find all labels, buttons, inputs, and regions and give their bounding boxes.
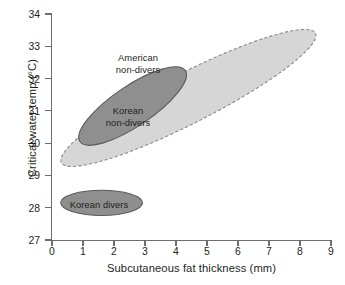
- y-tick-label-27: 27: [12, 235, 40, 246]
- x-tick-label-6: 6: [226, 246, 250, 257]
- ellipse-label-line2-american-non-divers: non-divers: [78, 64, 198, 76]
- x-tick-label-7: 7: [257, 246, 281, 257]
- y-tick-30: [45, 143, 51, 144]
- x-axis-title: Subcutaneous fat thickness (mm): [52, 262, 331, 274]
- y-tick-33: [45, 46, 51, 47]
- ellipse-label-american-non-divers: Americannon-divers: [78, 52, 198, 75]
- y-tick-label-32: 32: [12, 73, 40, 84]
- y-tick-label-31: 31: [12, 105, 40, 116]
- y-tick-34: [45, 13, 51, 14]
- chart-figure: Critical water temp (°C) Subcutaneous fa…: [0, 0, 345, 285]
- ellipse-american-non-divers: [50, 11, 327, 185]
- y-tick-label-33: 33: [12, 41, 40, 52]
- y-tick-32: [45, 78, 51, 79]
- x-tick-label-1: 1: [71, 246, 95, 257]
- x-tick-label-2: 2: [102, 246, 126, 257]
- x-tick-label-3: 3: [133, 246, 157, 257]
- y-tick-label-29: 29: [12, 170, 40, 181]
- ellipse-label-line1-korean-non-divers: Korean: [68, 105, 188, 117]
- y-tick-31: [45, 110, 51, 111]
- y-axis-title: Critical water temp (°C): [26, 3, 38, 233]
- ellipse-label-line1-american-non-divers: American: [78, 52, 198, 64]
- x-tick-label-4: 4: [164, 246, 188, 257]
- y-tick-29: [45, 175, 51, 176]
- ellipse-label-korean-divers: Korean divers: [39, 199, 159, 211]
- x-axis-line: [51, 240, 332, 241]
- y-tick-label-30: 30: [12, 138, 40, 149]
- x-tick-label-0: 0: [40, 246, 64, 257]
- x-tick-label-8: 8: [288, 246, 312, 257]
- ellipse-label-line2-korean-non-divers: non-divers: [68, 117, 188, 129]
- y-tick-label-28: 28: [12, 202, 40, 213]
- y-tick-label-34: 34: [12, 9, 40, 20]
- ellipse-label-line1-korean-divers: Korean divers: [39, 199, 159, 211]
- y-tick-27: [45, 239, 51, 240]
- x-tick-label-5: 5: [195, 246, 219, 257]
- ellipse-label-korean-non-divers: Koreannon-divers: [68, 105, 188, 128]
- x-tick-label-9: 9: [319, 246, 343, 257]
